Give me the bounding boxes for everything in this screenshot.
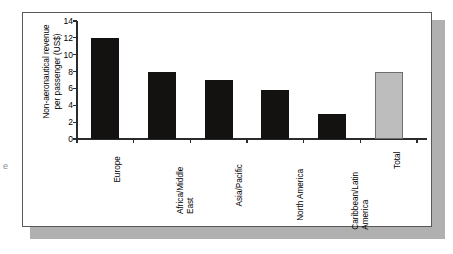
x-tick-label: Europe <box>114 156 124 182</box>
x-tick-label: Total <box>392 152 402 169</box>
x-tick-label-line: Total <box>392 152 401 169</box>
x-tick-label: Africa/MiddleEast <box>176 167 196 214</box>
bar-asia-pacific <box>205 80 233 139</box>
bar-europe <box>91 38 119 139</box>
figure-panel: Non-aeronautical revenue per passenger (… <box>22 12 432 227</box>
x-tick-label-line: East <box>186 167 196 214</box>
x-tick-label-line: Caribbean/Latin <box>351 172 360 230</box>
x-tick-label-line: Africa/Middle <box>176 167 185 214</box>
x-tick-label-line: Europe <box>114 156 123 182</box>
x-tick-label: North America <box>296 169 306 221</box>
x-tick-label: Asia/Pacific <box>235 164 245 206</box>
x-axis-tick-labels: EuropeAfrica/MiddleEastAsia/PacificNorth… <box>77 143 417 223</box>
x-tick-label: Caribbean/LatinAmerica <box>351 172 371 230</box>
scan-artifact-glyph: e <box>3 162 8 171</box>
x-tick-label-line: North America <box>296 169 305 221</box>
chart-bars <box>77 21 417 139</box>
bar-total <box>375 72 403 139</box>
bar-north-america <box>261 90 289 139</box>
chart-plot-area: Non-aeronautical revenue per passenger (… <box>23 13 431 226</box>
x-tick-label-line: Asia/Pacific <box>235 164 244 206</box>
bar-caribbean-latin-america <box>318 114 346 139</box>
bar-africa-middle-east <box>148 72 176 139</box>
x-tick-label-line: America <box>361 172 371 230</box>
